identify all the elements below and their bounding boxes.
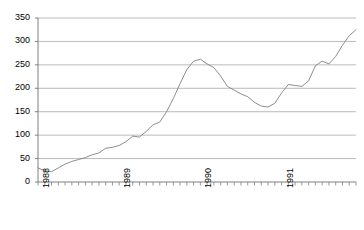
x-tick-label: 1990 [204,168,213,188]
x-tick-label: 1991 [286,168,295,188]
line-chart: 050100150200250300350 1988198919901991 [0,0,364,230]
x-tick-label: 1989 [123,168,132,188]
x-axis-tick-labels: 1988198919901991 [0,0,364,230]
x-tick-label: 1988 [42,168,51,188]
